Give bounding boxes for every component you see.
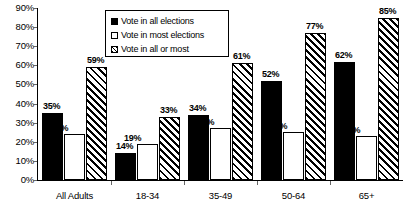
x-tick-separator xyxy=(111,181,112,185)
x-axis-line xyxy=(37,180,403,181)
legend-swatch-hatch-icon xyxy=(111,46,118,53)
bar-value-label: 62% xyxy=(335,51,352,60)
bar-value-label: 14% xyxy=(116,142,133,151)
bar-most xyxy=(210,128,231,180)
bar-group: 62%23%85% xyxy=(330,8,403,180)
legend-item-vote-all-or-most: Vote in all or most xyxy=(111,42,228,56)
x-axis-label: 50-64 xyxy=(257,191,330,201)
x-axis-label: All Adults xyxy=(38,191,111,201)
y-tick-label: 0% xyxy=(0,175,34,185)
y-tick-mark xyxy=(33,142,37,143)
bar-value-label: 35% xyxy=(43,102,60,111)
bar-value-label: 85% xyxy=(379,7,396,16)
x-tick-separator xyxy=(257,181,258,185)
bar-all xyxy=(115,153,136,180)
bar-value-label: 59% xyxy=(87,56,104,65)
y-tick-mark xyxy=(33,84,37,85)
x-axis-label: 65+ xyxy=(330,191,403,201)
y-tick-mark xyxy=(33,180,37,181)
y-tick-mark xyxy=(33,27,37,28)
bar-group: 52%25%77% xyxy=(257,8,330,180)
bar-allormost xyxy=(305,33,326,180)
bar-allormost xyxy=(159,117,180,180)
bar-most xyxy=(64,134,85,180)
x-tick-separator xyxy=(330,181,331,185)
y-tick-mark xyxy=(33,8,37,9)
x-axis-label: 35-49 xyxy=(184,191,257,201)
bar-allormost xyxy=(378,18,399,180)
bar-value-label: 23% xyxy=(343,126,360,135)
bar-value-label: 33% xyxy=(160,106,177,115)
y-axis: 0%10%20%30%40%50%60%70%80%90% xyxy=(0,0,34,212)
bar-value-label: 34% xyxy=(189,104,206,113)
bar-chart: 0%10%20%30%40%50%60%70%80%90% 35%24%59%1… xyxy=(0,0,406,212)
bar-value-label: 61% xyxy=(233,52,250,61)
legend-item-vote-most: Vote in most elections xyxy=(111,28,228,42)
y-tick-label: 60% xyxy=(0,60,34,70)
y-tick-label: 10% xyxy=(0,156,34,166)
legend-label: Vote in all or most xyxy=(121,45,189,54)
bar-all xyxy=(334,62,355,180)
y-tick-label: 20% xyxy=(0,137,34,147)
bar-most xyxy=(137,144,158,180)
bar-value-label: 25% xyxy=(270,122,287,131)
legend-swatch-solid-icon xyxy=(111,18,118,25)
y-tick-mark xyxy=(33,123,37,124)
y-tick-label: 40% xyxy=(0,99,34,109)
y-tick-mark xyxy=(33,46,37,47)
bar-allormost xyxy=(86,67,107,180)
y-tick-label: 70% xyxy=(0,41,34,51)
bar-group: 35%24%59% xyxy=(38,8,111,180)
bar-value-label: 24% xyxy=(51,124,68,133)
bar-value-label: 77% xyxy=(306,22,323,31)
y-tick-mark xyxy=(33,161,37,162)
bar-most xyxy=(356,136,377,180)
y-tick-label: 30% xyxy=(0,118,34,128)
chart-legend: Vote in all elections Vote in most elect… xyxy=(105,10,229,57)
x-tick-separator xyxy=(184,181,185,185)
y-tick-label: 80% xyxy=(0,22,34,32)
bar-allormost xyxy=(232,63,253,180)
legend-label: Vote in all elections xyxy=(121,17,194,26)
y-tick-mark xyxy=(33,65,37,66)
legend-label: Vote in most elections xyxy=(121,31,204,40)
y-tick-mark xyxy=(33,104,37,105)
bar-value-label: 19% xyxy=(124,134,141,143)
y-tick-label: 50% xyxy=(0,79,34,89)
bar-most xyxy=(283,132,304,180)
bar-value-label: 52% xyxy=(262,70,279,79)
y-tick-label: 90% xyxy=(0,3,34,13)
x-axis-label: 18-34 xyxy=(111,191,184,201)
legend-item-vote-all: Vote in all elections xyxy=(111,14,228,28)
bar-value-label: 27% xyxy=(197,118,214,127)
legend-swatch-outline-icon xyxy=(111,32,118,39)
